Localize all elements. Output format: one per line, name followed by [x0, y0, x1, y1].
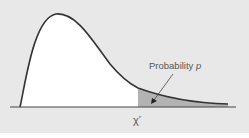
- critical-value-label: χ*: [133, 114, 142, 126]
- probability-label: Probability p: [149, 60, 201, 71]
- chi-square-diagram: Probability p χ*: [0, 0, 249, 138]
- density-body-fill: [20, 14, 138, 107]
